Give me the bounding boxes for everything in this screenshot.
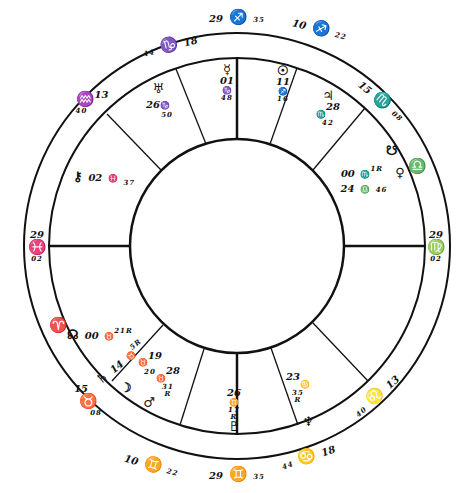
cusp-5-line — [313, 323, 368, 381]
taurus-icon: ♉ — [104, 331, 114, 341]
taurus-icon: ♉ — [138, 357, 148, 367]
mars-icon: ♂ — [143, 396, 155, 409]
planet-mercury: ☿ 01 ♑ 48 — [220, 63, 234, 101]
gemini-icon: ♊ — [229, 465, 248, 483]
taurus-icon: ♉ — [79, 394, 98, 409]
planet-mars-scorpio: 00 ♏1R — [341, 164, 383, 180]
uranus-icon: ♅ — [152, 82, 164, 95]
planet-libra-point: 24 ♎ 46 — [341, 179, 388, 195]
planet-chiron: ⚷ 02 ♓ 37 — [73, 168, 135, 186]
planet-north-node: ☊ 00 ♉21R — [67, 326, 133, 342]
chiron-icon: ⚷ — [73, 169, 83, 184]
cusp-desc: 29 ♍ 02 — [427, 230, 446, 262]
aries-icon: ♈ — [49, 318, 68, 333]
venus-icon: ♀ — [395, 166, 405, 179]
planet-sun: ☉ 11 ♐ 16 — [276, 64, 290, 102]
taurus-icon: ♉ — [156, 373, 166, 383]
libra-icon: ♎ — [408, 159, 427, 174]
inner-circle — [130, 139, 344, 353]
planet-uranus: ♅ 26♑ 50 — [143, 82, 173, 118]
cusp-asc: 29 ♓ 02 — [28, 230, 47, 262]
pluto-icon: ♇ — [228, 420, 240, 433]
pisces-icon: ♓ — [108, 173, 118, 183]
north-node-icon: ☊ — [67, 327, 79, 342]
cancer-icon: ♋ — [300, 379, 310, 389]
planet-pluto: 26 ♊ 17 R ♇ — [227, 388, 241, 433]
cusp-11-left-line — [107, 114, 161, 170]
moon-icon: ☽ — [120, 381, 132, 394]
cusp-2: 15 ♉ 08 — [74, 384, 102, 416]
planet-jupiter: ♃ ♏28 42 — [316, 89, 340, 126]
south-node-icon: ☋ — [386, 144, 398, 157]
cusp-11-left: ♒13 40 — [76, 90, 109, 114]
neptune-icon: ♆ — [302, 415, 314, 428]
cusp-3-line — [180, 349, 204, 425]
pisces-icon: ♓ — [28, 240, 47, 255]
planet-taurus-28: ♉28 31 R — [156, 366, 180, 397]
libra-icon: ♎ — [360, 184, 370, 194]
virgo-icon: ♍ — [427, 240, 446, 255]
cusp-ic: 29 ♊ 35 — [209, 466, 265, 482]
scorpio-icon: ♏ — [360, 169, 370, 179]
planet-cancer-23: 23♋ 35 R — [286, 372, 310, 403]
cusp-mc: 29 ♐ 35 — [209, 9, 265, 25]
sagittarius-icon: ♐ — [229, 8, 248, 26]
cusp-10-left-line — [176, 69, 206, 144]
